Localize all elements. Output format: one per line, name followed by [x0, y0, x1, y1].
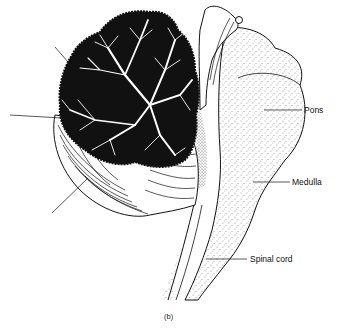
cerebellum-brainstem-figure: Pons Medulla Spinal cord (b) [0, 0, 345, 329]
leader-line-mid-left [10, 115, 62, 118]
label-spinal-cord: Spinal cord [250, 254, 293, 264]
anatomy-illustration [0, 0, 345, 329]
leader-line-bottom-left [52, 178, 88, 213]
panel-label: (b) [164, 312, 173, 321]
label-pons: Pons [304, 105, 323, 115]
label-medulla: Medulla [292, 177, 322, 187]
arbor-vitae [60, 11, 199, 167]
